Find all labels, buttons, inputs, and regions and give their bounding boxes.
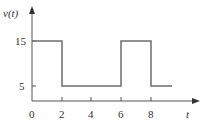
y-tick-label-15: 15 (15, 35, 27, 47)
x-axis-arrow-icon (192, 98, 200, 104)
x-tick-label-6: 6 (118, 108, 124, 120)
x-tick-label-0: 0 (29, 108, 35, 120)
y-axis-label: v(t) (3, 7, 19, 20)
x-tick-label-8: 8 (148, 108, 154, 120)
y-axis-arrow-icon (29, 6, 35, 14)
x-tick-label-4: 4 (88, 108, 94, 120)
waveform-line (32, 41, 172, 86)
waveform-chart: v(t) t 15 5 0 2 4 6 8 (0, 0, 204, 121)
y-tick-label-5: 5 (19, 80, 25, 92)
x-tick-label-2: 2 (59, 108, 65, 120)
x-axis-label: t (186, 108, 190, 120)
